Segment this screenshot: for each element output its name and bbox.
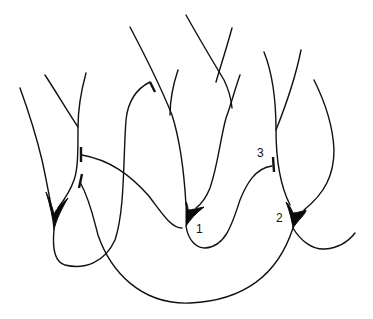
cell-2-dendrite-right: [304, 80, 334, 210]
synapse-3-label: 3: [257, 146, 264, 160]
cell-1-dendrite-right-outer: [186, 15, 232, 108]
cell-1-dendrite-left: [130, 27, 186, 205]
left-neuron-dendrite-outer: [20, 88, 52, 210]
cell-1-dendrite-right-inner: [196, 75, 240, 208]
cell-1-dendrite-right-branch: [216, 28, 232, 82]
cell-1-label: 1: [196, 222, 203, 236]
left-neuron: [20, 73, 155, 266]
cell-2-axon: [80, 182, 293, 303]
left-neuron-dendrite-apical: [58, 73, 86, 208]
cell-2-basal-dendrite: [293, 228, 355, 249]
cell-2-dendrite-branch: [276, 50, 301, 130]
left-neuron-dendrite-branch: [45, 75, 78, 127]
neuron-circuit-diagram: 1 3 2: [0, 0, 373, 319]
cell-2-label: 2: [276, 211, 283, 225]
cell-1-neuron: 1: [130, 15, 272, 248]
left-neuron-axon-terminal: [150, 82, 155, 92]
feedback-axon-path: [82, 155, 182, 228]
cell-2-neuron: 2: [79, 50, 355, 303]
left-neuron-axon: [53, 82, 150, 266]
cell-1-dendrite-branch: [170, 70, 178, 115]
synapse-3-terminal-bar: [273, 157, 274, 172]
feedback-axon: [81, 147, 182, 228]
cell-2-soma: [286, 202, 306, 228]
